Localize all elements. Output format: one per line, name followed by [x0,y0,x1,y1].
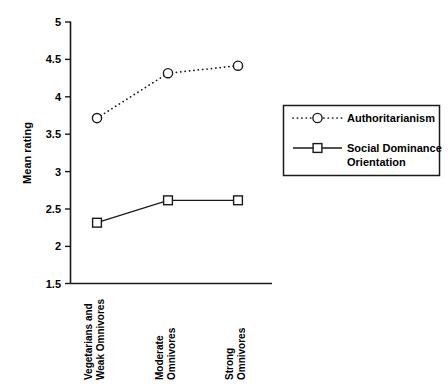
x-tick-label-line-1a: Moderate [154,335,165,380]
chart-legend: Authoritarianism Social Dominance Orient… [284,106,442,176]
x-tick-label-line-0b: Weak Omnivores [95,299,106,380]
legend-marker-open-circle-icon [313,113,322,122]
y-axis-title: Mean rating [21,122,33,184]
y-tick-label-5: 5 [55,16,61,28]
y-tick-label-4.5: 4.5 [46,53,61,65]
data-point-sdo-2 [234,196,243,205]
chart-figure: 5 4.5 4 3.5 3 2.5 2 1.5 Mean rating Vege… [0,0,448,392]
chart-canvas: 5 4.5 4 3.5 3 2.5 2 1.5 Mean rating Vege… [0,0,448,392]
data-point-sdo-0 [93,218,102,227]
y-tick-label-2: 2 [55,240,61,252]
y-tick-label-4: 4 [55,91,62,103]
x-tick-label-line-2b: Omnivores [236,327,247,380]
data-point-authoritarianism-2 [233,61,242,70]
y-tick-label-1.5: 1.5 [46,278,61,290]
legend-entry-authoritarianism: Authoritarianism [293,112,435,124]
data-point-authoritarianism-1 [163,69,172,78]
y-tick-label-3: 3 [55,166,61,178]
y-tick-label-3.5: 3.5 [46,128,61,140]
x-tick-label-line-2a: Strong [224,348,235,380]
legend-label-sdo-line-1: Social Dominance [347,142,442,154]
legend-label-sdo-line-2: Orientation [347,156,406,168]
x-tick-label-group-0: Vegetarians and Weak Omnivores [83,299,106,380]
x-tick-label-line-0a: Vegetarians and [83,303,94,380]
data-point-sdo-1 [164,196,173,205]
x-tick-label-line-1b: Omnivores [166,327,177,380]
legend-marker-open-square-icon [313,144,322,153]
data-point-authoritarianism-0 [92,114,101,123]
y-tick-label-2.5: 2.5 [46,203,61,215]
legend-label-authoritarianism: Authoritarianism [347,112,435,124]
